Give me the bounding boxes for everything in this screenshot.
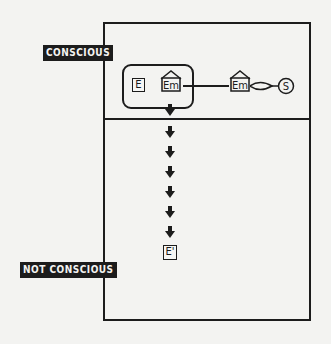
down-arrow-icon <box>165 226 175 238</box>
down-arrow-icon <box>165 126 175 138</box>
svg-text:Em: Em <box>163 80 179 91</box>
down-arrow-icon <box>165 166 175 178</box>
down-arrow-icon <box>165 104 175 116</box>
svg-text:Em: Em <box>232 80 248 91</box>
node-em-inner: Em <box>159 68 183 92</box>
not-conscious-label: NOT CONSCIOUS <box>20 262 117 278</box>
svg-text:S: S <box>283 81 289 92</box>
conscious-boundary-line <box>103 118 311 120</box>
house-icon: Em <box>228 68 252 92</box>
house-icon: Em <box>159 68 183 92</box>
link-to-s: S <box>250 77 298 95</box>
node-em-outer: Em <box>228 68 252 92</box>
node-e: E <box>132 78 145 92</box>
conscious-label: CONSCIOUS <box>43 45 113 61</box>
node-e-prime: E' <box>163 245 177 260</box>
connector-line <box>183 85 229 87</box>
down-arrow-icon <box>165 186 175 198</box>
down-arrow-icon <box>165 146 175 158</box>
down-arrow-icon <box>165 206 175 218</box>
lens-connector-icon <box>250 83 272 90</box>
